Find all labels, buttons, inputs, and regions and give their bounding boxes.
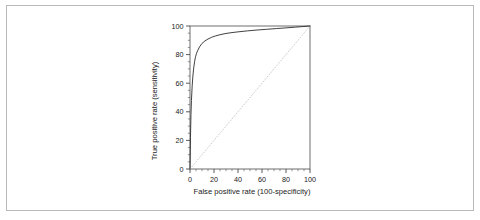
y-tick-label: 40 [176,107,184,116]
x-tick-label-group: 020406080100 [188,175,316,184]
roc-chart-figure: True positive rate (sensitivity) False p… [147,14,332,210]
x-tick-label: 0 [188,175,192,184]
y-tick-label: 80 [176,50,184,59]
y-tick-label: 0 [180,165,184,174]
y-axis-title: True positive rate (sensitivity) [150,61,159,160]
x-tick-label: 100 [304,175,316,184]
y-tick-label: 20 [176,136,184,145]
x-tick-label: 20 [210,175,218,184]
x-tick-label: 60 [258,175,266,184]
x-tick-label: 80 [282,175,290,184]
screenshot-canvas: True positive rate (sensitivity) False p… [0,0,480,220]
page-frame: True positive rate (sensitivity) False p… [6,5,474,211]
y-tick-label: 60 [176,79,184,88]
reference-diagonal-line [190,26,310,169]
x-axis-title: False positive rate (100-specificity) [194,187,311,196]
y-tick-label-group: 020406080100 [172,22,184,174]
x-tick-label: 40 [234,175,242,184]
y-tick-label: 100 [172,22,184,31]
roc-chart-svg: True positive rate (sensitivity) False p… [147,14,332,210]
